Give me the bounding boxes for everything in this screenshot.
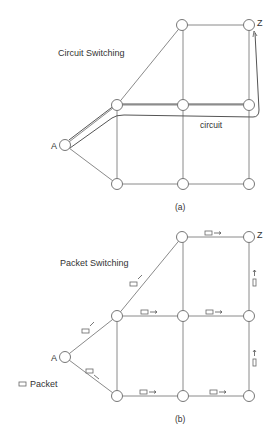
- circuit-label: circuit: [200, 120, 223, 130]
- node-z: [244, 20, 255, 31]
- node-z: [244, 232, 255, 243]
- source-label-b: A: [51, 353, 57, 363]
- dest-label-b: Z: [257, 230, 263, 240]
- switching-diagram: Circuit Switching circuit A Z (a): [0, 0, 278, 440]
- packet-icon: [206, 310, 213, 314]
- legend-packet-icon: [19, 382, 26, 386]
- legend-packet-label: Packet: [30, 379, 58, 389]
- packet-icon: [253, 359, 256, 366]
- packet-icons: [82, 231, 256, 394]
- cropped-figure-caption: [0, 434, 278, 440]
- packet-icon: [130, 282, 137, 286]
- packet-icon: [253, 279, 256, 286]
- node-a: [60, 140, 71, 151]
- packet-icon: [210, 390, 217, 394]
- packet-icon: [140, 390, 147, 394]
- source-label-a: A: [51, 141, 57, 151]
- packet-icon: [86, 369, 93, 373]
- dest-label-a: Z: [257, 18, 263, 28]
- packet-icon: [141, 310, 148, 314]
- circuit-switching-title: Circuit Switching: [58, 48, 125, 58]
- packet-icon: [82, 329, 89, 333]
- packet-switching-network: [60, 232, 255, 402]
- node-a: [60, 352, 71, 363]
- caption-a: (a): [175, 202, 186, 212]
- packet-icon: [205, 231, 212, 235]
- caption-b: (b): [175, 414, 186, 424]
- circuit-switching-network: [60, 20, 260, 190]
- packet-switching-title: Packet Switching: [60, 258, 129, 268]
